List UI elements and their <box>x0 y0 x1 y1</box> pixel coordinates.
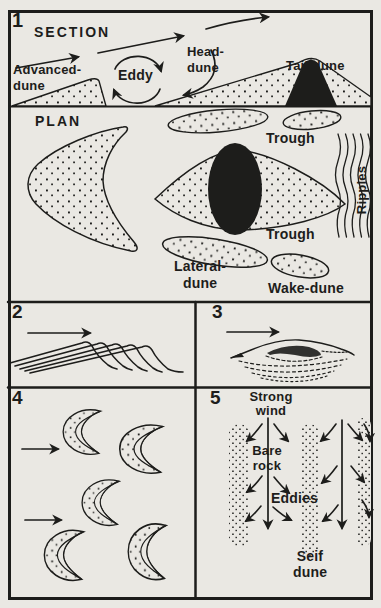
label-trough-lower: Trough <box>266 226 315 242</box>
label-trough-upper: Trough <box>266 130 315 146</box>
panel4-drawing <box>22 410 166 581</box>
panel4-number: 4 <box>12 390 23 406</box>
barchan-crescent-2 <box>120 425 163 473</box>
panel2-drawing <box>10 333 183 373</box>
label-bare-rock: Bare rock <box>243 443 291 473</box>
label-advanced-dune: Advanced- dune <box>13 62 81 94</box>
migrating-dune-profiles <box>10 342 183 373</box>
panel5-drawing <box>229 418 371 557</box>
barchan-crescent-4 <box>44 530 83 580</box>
panel1-number: 1 <box>12 12 23 28</box>
wake-dune-shape <box>270 250 331 282</box>
label-section-title: SECTION <box>34 24 110 40</box>
label-lateral-dune: Lateral- dune <box>168 258 232 292</box>
upper-lobe-right <box>282 108 342 132</box>
panel2-number: 2 <box>12 304 23 320</box>
figure-dune-diagram: 1 SECTION Advanced- dune Eddy Head- dune… <box>0 0 381 608</box>
label-tail-dune: Tail-dune <box>286 58 345 74</box>
label-eddies: Eddies <box>271 490 318 506</box>
barchan-crescent-3 <box>82 480 119 525</box>
panel3-drawing <box>227 332 354 382</box>
barchan-hatching <box>239 351 347 382</box>
label-plan-title: PLAN <box>35 113 81 129</box>
panel3-number: 3 <box>212 304 223 320</box>
panel1-plan-drawing <box>28 106 371 282</box>
upper-lobe-left <box>167 106 269 137</box>
label-eddy: Eddy <box>118 67 153 83</box>
central-dune-core <box>208 143 262 235</box>
panel5-number: 5 <box>210 390 221 406</box>
barchan-crescent-1 <box>63 410 100 454</box>
barchan-slip-face <box>267 346 321 357</box>
label-seif-dune: Seif dune <box>285 548 335 580</box>
label-head-dune: Head- dune <box>187 44 224 76</box>
barchan-crescent-5 <box>128 524 166 580</box>
label-strong-wind: Strong wind <box>243 390 299 418</box>
label-ripples: Ripples <box>354 158 370 222</box>
label-wake-dune: Wake-dune <box>268 280 344 296</box>
boomerang-dune-shape <box>28 127 137 251</box>
